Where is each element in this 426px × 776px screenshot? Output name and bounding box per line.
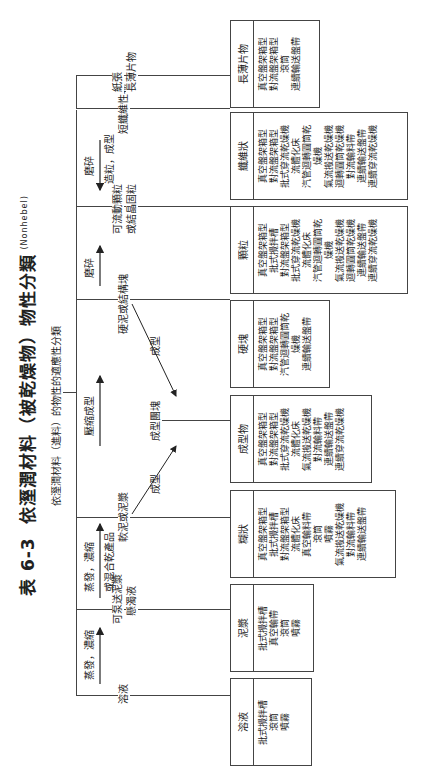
dryer-item: 燥機	[313, 116, 324, 196]
box-title: 長薄片物	[231, 21, 254, 107]
dryer-item: 真空盤架箱型	[258, 210, 269, 290]
dryer-item: 流體化床	[291, 116, 302, 196]
dryer-item: 氣流搬送乾燥機	[335, 210, 346, 290]
dryer-item: 真空盤架箱型	[258, 494, 269, 574]
dryer-item: 流體化床	[291, 494, 302, 574]
dryer-item: 連續穿流乾燥機	[368, 116, 379, 196]
dryer-item: 流體化床	[302, 210, 313, 290]
box-slurry: 泥漿 批式攪拌槽 真空輸帶 滾筒 噴霧	[230, 584, 314, 672]
dryer-item: 批式攪拌槽	[258, 588, 269, 668]
diagram-canvas: 表 6-3 依溼潤材料（被乾燥物）物性分類(Nonhebel) 依溼潤材料（進料…	[0, 0, 426, 776]
box-title: 硬塊	[231, 301, 254, 387]
arrow-label-shape2: 成型	[150, 336, 162, 356]
dryer-item: 連續輸送盤帶	[357, 494, 368, 574]
dryer-item: 真空輸帶	[269, 588, 280, 668]
dryer-item: 噴霧	[280, 682, 291, 762]
box-title: 纖維狀	[231, 113, 254, 199]
box-hardcake: 硬塊 真空盤架箱型 對流盤架箱型 汽管迴轉圓筒乾 燥機 連續輸送盤帶	[230, 300, 330, 388]
dryer-item: 氣流搬送乾燥機	[324, 116, 335, 196]
dryer-item: 連續穿流乾燥機	[368, 210, 379, 290]
arrow-label-evap2-sub: 或混合乾產品	[104, 532, 116, 592]
dryer-item: 燥機	[291, 304, 302, 384]
dryer-item: 對流盤架箱型	[269, 24, 280, 104]
dryer-item: 批式穿流乾燥機	[291, 210, 302, 290]
dryer-item: 滾筒	[280, 24, 291, 104]
box-granule: 顆粒 真空盤架箱型 批式攪拌槽 對流盤架箱型 批式穿流乾燥機 流體化床 汽管迴轉…	[230, 206, 408, 294]
dryer-item: 迴轉圓筒乾燥機	[335, 116, 346, 196]
arrow-label-crush2: 磨碎	[84, 156, 96, 176]
dryer-item: 連續輸送盤帶	[324, 399, 335, 479]
dryer-item: 真空盤架箱型	[258, 304, 269, 384]
dryer-item: 對流盤架箱型	[269, 116, 280, 196]
box-title: 成型物	[231, 396, 254, 482]
dryer-item: 滾筒	[280, 588, 291, 668]
dryer-item: 真空盤架箱型	[258, 116, 269, 196]
arrow-label-crush1: 磨碎	[84, 258, 96, 278]
arrow-label-evap1: 蒸發，濃縮	[84, 630, 96, 680]
dryer-item: 噴霧	[291, 588, 302, 668]
dryer-item: 氣流搬送乾燥機	[302, 399, 313, 479]
dryer-item: 批式穿流乾燥機	[280, 399, 291, 479]
dryer-item: 連續輸送盤帶	[291, 24, 302, 104]
box-title: 溶液	[231, 679, 254, 765]
dryer-item: 對流盤架箱型	[269, 304, 280, 384]
dryer-item: 對流盤架箱型	[280, 494, 291, 574]
box-title: 泥漿	[231, 585, 254, 671]
arrow-label-crush2-sub: 造粒，成型	[104, 134, 116, 184]
dryer-item: 連續輸送盤帶	[357, 210, 368, 290]
dryer-item: 燥機	[324, 210, 335, 290]
dryer-item: 汽管迴轉圓筒乾	[313, 210, 324, 290]
dryer-item: 汽管迴轉圓筒乾	[302, 116, 313, 196]
dryer-item: 對流輸料帶	[346, 116, 357, 196]
arrow-label-evap2: 蒸發，濃縮	[84, 542, 96, 592]
dryer-item: 流體化床	[291, 399, 302, 479]
dryer-item: 對流盤架箱型	[269, 399, 280, 479]
dryer-item: 真空盤架箱型	[258, 24, 269, 104]
dryer-item: 氣流搬送乾燥機	[335, 494, 346, 574]
box-title: 顆粒	[231, 207, 254, 293]
dryer-item: 噴霧	[324, 494, 335, 574]
dryer-item: 批式穿流乾燥機	[280, 116, 291, 196]
box-paste: 糊狀 真空盤架箱型 批式攪拌槽 對流盤架箱型 流體化床 真空輸料帶 滾筒 噴霧 …	[230, 490, 396, 578]
arrow-label-shape1: 成型	[150, 474, 162, 494]
dryer-item: 對流盤架箱型	[280, 210, 291, 290]
box-liquid: 溶液 批式攪拌槽 滾筒 噴霧	[230, 678, 312, 766]
dryer-item: 滾筒	[313, 494, 324, 574]
box-molded: 成型物 真空盤架箱型 對流盤架箱型 批式穿流乾燥機 流體化床 氣流搬送乾燥機 對…	[230, 395, 372, 483]
dryer-item: 批式攪拌槽	[258, 682, 269, 762]
box-title: 糊狀	[231, 491, 254, 577]
dryer-item: 連續輸送盤帶	[302, 304, 313, 384]
dryer-item: 批式攪拌槽	[269, 494, 280, 574]
dryer-item: 迴轉圓筒乾燥機	[346, 210, 357, 290]
dryer-item: 真空盤架箱型	[258, 399, 269, 479]
dryer-item: 對流輸料帶	[313, 399, 324, 479]
box-fiber: 纖維狀 真空盤架箱型 對流盤架箱型 批式穿流乾燥機 流體化床 汽管迴轉圓筒乾 燥…	[230, 112, 408, 200]
box-sheet: 長薄片物 真空盤架箱型 對流盤架箱型 滾筒 連續輸送盤帶	[230, 20, 320, 108]
dryer-item: 批式攪拌槽	[269, 210, 280, 290]
dryer-item: 連續穿流乾燥機	[335, 399, 346, 479]
dryer-item: 滾筒	[269, 682, 280, 762]
dryer-item: 真空輸料帶	[302, 494, 313, 574]
dryer-item: 對流輸料帶	[346, 494, 357, 574]
arrow-label-press: 壓縮成型	[84, 396, 96, 436]
dryer-item: 連續輸送盤帶	[357, 116, 368, 196]
dryer-item: 汽管迴轉圓筒乾	[280, 304, 291, 384]
